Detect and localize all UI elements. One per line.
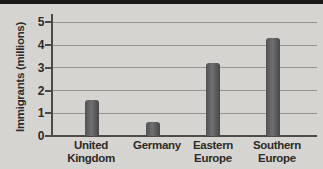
- x-label-line: Kingdom: [46, 152, 136, 165]
- immigrants-bar-chart: Immigrants (millions) 012345UnitedKingdo…: [0, 0, 323, 169]
- y-tick-label-1: 1: [26, 106, 44, 120]
- x-label-line: Southern: [232, 139, 322, 152]
- y-tick-label-0: 0: [26, 129, 44, 143]
- gridline-5: [52, 22, 317, 23]
- y-tick-label-5: 5: [26, 15, 44, 29]
- y-tick-label-3: 3: [26, 61, 44, 75]
- x-label-line: Europe: [232, 152, 322, 165]
- y-tick-label-4: 4: [26, 38, 44, 52]
- bar-chart-figure: Immigrants (millions) 012345UnitedKingdo…: [0, 0, 323, 169]
- x-label-southern-europe: SouthernEurope: [232, 139, 322, 165]
- bar-eastern-europe: [206, 63, 220, 136]
- bar-southern-europe: [266, 38, 280, 136]
- bar-united-kingdom: [85, 100, 99, 136]
- y-tick-label-2: 2: [26, 84, 44, 98]
- bar-germany: [146, 122, 160, 136]
- y-axis-line: [51, 14, 53, 137]
